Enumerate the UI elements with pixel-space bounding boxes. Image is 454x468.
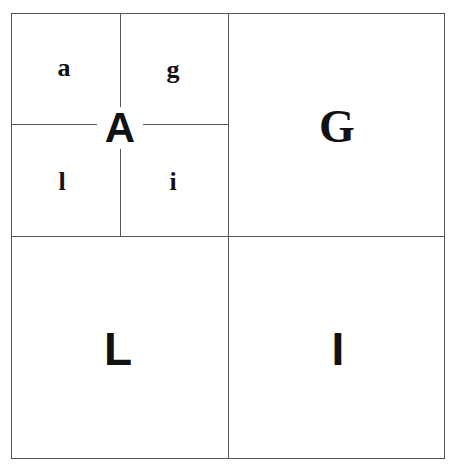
quadrant-g-label: G — [319, 104, 355, 150]
sub-quadrant-i-label: i — [169, 169, 176, 195]
sub-quadrant-g-label: g — [167, 57, 180, 83]
quadrant-i-label: I — [332, 326, 345, 372]
sub-vertical-divider-bottom — [120, 148, 121, 236]
main-horizontal-divider — [11, 236, 445, 237]
sub-quadrant-a-label: a — [58, 55, 71, 81]
sub-vertical-divider-top — [120, 13, 121, 113]
sub-quadrant-l-label: l — [58, 169, 65, 195]
quadrant-a-label: A — [99, 107, 141, 149]
sub-horizontal-divider-left — [11, 124, 97, 125]
sub-horizontal-divider-right — [143, 124, 228, 125]
quadrant-l-label: L — [104, 326, 132, 372]
